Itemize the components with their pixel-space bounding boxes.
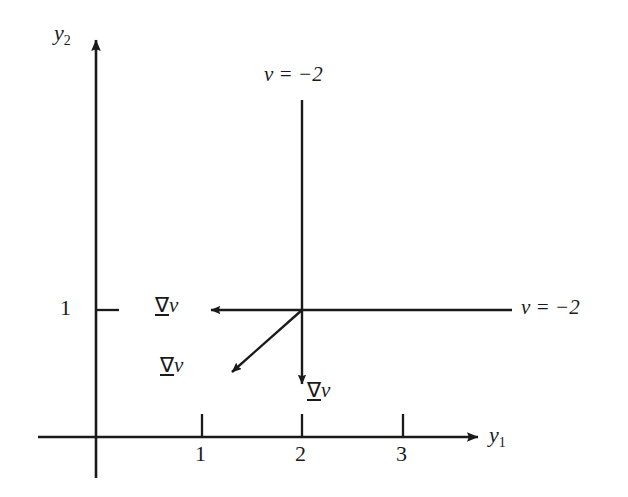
y-axis-label-subscript: 2 — [64, 33, 71, 48]
y-axis-label-text: y — [54, 20, 64, 45]
gradient-vector-diagonal — [232, 310, 302, 372]
horizontal-contour-label: v = −2 — [521, 297, 580, 318]
x-tick-label-1: 1 — [195, 443, 206, 465]
gradient-contour-diagram: y2 y1 1 2 3 1 v = −2 v = −2 ∇v ∇v ∇v — [0, 0, 628, 497]
x-axis-label-text: y — [489, 422, 499, 447]
gradient-label-left-var: v — [169, 293, 178, 317]
gradient-label-down-nabla: ∇ — [307, 378, 321, 402]
gradient-label-left-nabla: ∇ — [155, 293, 169, 317]
x-axis-label-subscript: 1 — [499, 435, 506, 450]
y-tick-label-1: 1 — [60, 297, 71, 319]
gradient-label-left: ∇v — [155, 295, 178, 316]
gradient-label-diagonal: ∇v — [160, 355, 183, 376]
x-tick-label-3: 3 — [396, 443, 407, 465]
x-axis-label: y1 — [489, 424, 506, 450]
gradient-label-diagonal-nabla: ∇ — [160, 353, 174, 377]
vertical-contour-label-text: v = −2 — [264, 62, 323, 86]
horizontal-contour-label-text: v = −2 — [521, 295, 580, 319]
gradient-label-down: ∇v — [307, 380, 330, 401]
gradient-label-down-var: v — [321, 378, 330, 402]
gradient-label-diagonal-var: v — [174, 353, 183, 377]
x-tick-label-2: 2 — [295, 443, 306, 465]
vertical-contour-label: v = −2 — [264, 64, 323, 85]
y-axis-label: y2 — [54, 22, 71, 48]
